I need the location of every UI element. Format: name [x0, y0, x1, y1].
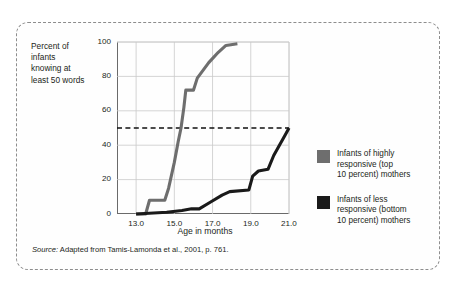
series-line-0	[136, 44, 237, 214]
legend-entry-1: Infants of less responsive (bottom 10 pe…	[317, 195, 435, 227]
y-tick-label: 80	[89, 71, 111, 80]
source-citation: Adapted from Tamis-Lamonda et al., 2001,…	[58, 245, 228, 254]
y-tick-label: 100	[89, 37, 111, 46]
y-tick-label: 40	[89, 140, 111, 149]
legend-entry-0: Infants of highly responsive (top 10 per…	[317, 149, 435, 181]
x-axis-title: Age in months	[117, 226, 293, 237]
legend-label: Infants of less responsive (bottom 10 pe…	[337, 195, 410, 227]
y-tick-label: 20	[89, 174, 111, 183]
chart-legend: Infants of highly responsive (top 10 per…	[317, 149, 435, 241]
figure-container: Percent of infants knowing at least 50 w…	[16, 22, 440, 270]
y-tick-label: 0	[89, 209, 111, 218]
source-label: Source:	[32, 245, 58, 254]
legend-swatch	[317, 150, 330, 163]
legend-label: Infants of highly responsive (top 10 per…	[337, 149, 410, 181]
chart-area: Percent of infants knowing at least 50 w…	[17, 23, 441, 271]
legend-swatch	[317, 196, 330, 209]
y-tick-label: 60	[89, 105, 111, 114]
source-note: Source: Adapted from Tamis-Lamonda et al…	[32, 245, 229, 254]
